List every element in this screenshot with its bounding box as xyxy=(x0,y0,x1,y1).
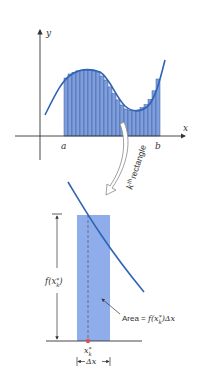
a-label: a xyxy=(61,141,66,151)
kth-rectangle xyxy=(77,215,110,341)
area-label: Area = f(xk*)Δx xyxy=(122,314,176,325)
kth-rectangle-label: kthrectangle xyxy=(124,143,148,190)
riemann-rectangle xyxy=(128,110,132,136)
x-axis-label: x xyxy=(183,123,188,133)
riemann-rectangle xyxy=(80,70,84,136)
riemann-rectangles xyxy=(64,70,160,136)
detail-view: f(xk*) Area = f(xk*)Δx xk* Δx xyxy=(44,182,176,366)
sample-point-label: xk* xyxy=(84,346,93,357)
height-label: f(xk*) xyxy=(44,276,63,288)
riemann-rectangle xyxy=(116,100,120,136)
riemann-rectangle xyxy=(132,111,136,136)
riemann-rectangle xyxy=(140,108,144,136)
riemann-rectangle xyxy=(92,71,96,136)
riemann-rectangle xyxy=(112,94,116,136)
riemann-rectangle xyxy=(64,78,68,136)
riemann-rectangle xyxy=(96,72,100,136)
riemann-rectangle xyxy=(108,87,112,136)
riemann-rectangle xyxy=(104,80,108,136)
svg-text:kthrectangle: kthrectangle xyxy=(124,143,148,190)
riemann-rectangle xyxy=(88,70,92,136)
top-graph: y x a b kthrectangle xyxy=(15,28,188,195)
sample-point xyxy=(86,339,90,343)
riemann-rectangle xyxy=(68,74,72,136)
y-axis-label: y xyxy=(45,28,52,38)
b-label: b xyxy=(155,141,161,151)
riemann-rectangle xyxy=(84,70,88,136)
riemann-rectangle xyxy=(76,71,80,136)
riemann-rectangle xyxy=(100,76,104,136)
riemann-rectangle xyxy=(72,72,76,136)
riemann-rectangle xyxy=(136,110,140,136)
riemann-sum-diagram: y x a b kthrectangle f(xk*) Area = f(xk*… xyxy=(0,0,199,370)
width-label: Δx xyxy=(85,357,97,366)
